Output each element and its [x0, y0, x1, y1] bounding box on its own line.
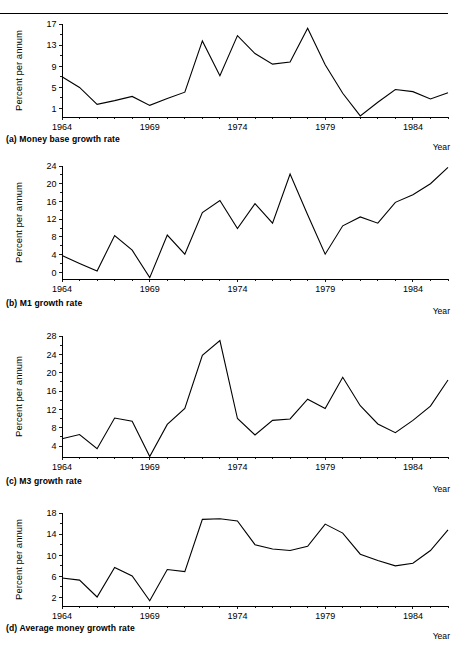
y-tick-label: 12: [46, 405, 56, 415]
y-tick-label: 20: [46, 368, 56, 378]
data-series-line: [62, 341, 448, 457]
plot-area-a: 159131719641969197419791984Percent per a…: [0, 18, 456, 134]
y-tick-label: 0: [51, 268, 56, 278]
y-tick-label: 6: [51, 572, 56, 582]
x-tick-label: 1984: [403, 462, 423, 472]
line-chart-c: 48121620242819641969197419791984Percent …: [0, 328, 456, 476]
x-tick-label: 1974: [227, 462, 247, 472]
caption-d: (d) Average money growth rate: [6, 623, 135, 633]
y-tick-label: 5: [51, 83, 56, 93]
plot-area-c: 48121620242819641969197419791984Percent …: [0, 328, 456, 476]
top-horizontal-rule: [0, 13, 448, 14]
x-axis-label-b: Year: [433, 306, 450, 316]
y-tick-label: 9: [51, 62, 56, 72]
y-tick-label: 24: [46, 350, 56, 360]
y-tick-label: 8: [51, 232, 56, 242]
y-tick-label: 12: [46, 214, 56, 224]
plot-area-d: 2610141819641969197419791984Percent per …: [0, 505, 456, 623]
chart-panel-m1: 0481216202419641969197419791984Percent p…: [0, 158, 456, 298]
y-tick-label: 16: [46, 386, 56, 396]
x-tick-label: 1974: [227, 284, 247, 294]
y-tick-label: 2: [51, 593, 56, 603]
caption-c: (c) M3 growth rate: [6, 476, 82, 486]
x-tick-label: 1969: [140, 462, 160, 472]
y-tick-label: 24: [46, 161, 56, 171]
x-tick-label: 1984: [403, 122, 423, 132]
x-tick-label: 1984: [403, 611, 423, 621]
y-tick-label: 17: [46, 19, 56, 29]
y-tick-label: 10: [46, 551, 56, 561]
y-axis-label: Percent per annum: [13, 356, 24, 437]
y-axis-label: Percent per annum: [13, 30, 24, 111]
y-tick-label: 16: [46, 197, 56, 207]
data-series-line: [62, 519, 448, 601]
x-tick-label: 1964: [52, 284, 72, 294]
x-tick-label: 1974: [227, 122, 247, 132]
x-tick-label: 1974: [227, 611, 247, 621]
y-tick-label: 4: [51, 250, 56, 260]
chart-panel-money-base: 159131719641969197419791984Percent per a…: [0, 18, 456, 134]
y-tick-label: 18: [46, 508, 56, 518]
x-axis-label-d: Year: [433, 631, 450, 641]
figure-page: 159131719641969197419791984Percent per a…: [0, 0, 456, 657]
x-tick-label: 1979: [315, 611, 335, 621]
y-tick-label: 20: [46, 179, 56, 189]
x-tick-label: 1969: [140, 122, 160, 132]
x-tick-label: 1979: [315, 122, 335, 132]
y-axis-label: Percent per annum: [13, 519, 24, 600]
x-tick-label: 1969: [140, 611, 160, 621]
caption-b: (b) M1 growth rate: [6, 298, 82, 308]
chart-panel-average-money: 2610141819641969197419791984Percent per …: [0, 505, 456, 623]
x-tick-label: 1964: [52, 611, 72, 621]
data-series-line: [62, 167, 448, 277]
caption-a: (a) Money base growth rate: [6, 134, 120, 144]
line-chart-d: 2610141819641969197419791984Percent per …: [0, 505, 456, 623]
y-tick-label: 1: [51, 104, 56, 114]
y-tick-label: 14: [46, 529, 56, 539]
chart-panel-m3: 48121620242819641969197419791984Percent …: [0, 328, 456, 476]
x-axis-label-c: Year: [433, 484, 450, 494]
y-tick-label: 13: [46, 40, 56, 50]
y-tick-label: 8: [51, 423, 56, 433]
y-tick-label: 4: [51, 441, 56, 451]
data-series-line: [62, 28, 448, 116]
line-chart-a: 159131719641969197419791984Percent per a…: [0, 18, 456, 134]
line-chart-b: 0481216202419641969197419791984Percent p…: [0, 158, 456, 298]
x-tick-label: 1969: [140, 284, 160, 294]
x-tick-label: 1979: [315, 462, 335, 472]
y-axis-label: Percent per annum: [13, 182, 24, 263]
x-tick-label: 1979: [315, 284, 335, 294]
x-tick-label: 1984: [403, 284, 423, 294]
x-tick-label: 1964: [52, 462, 72, 472]
x-axis-label-a: Year: [433, 142, 450, 152]
plot-area-b: 0481216202419641969197419791984Percent p…: [0, 158, 456, 298]
y-tick-label: 28: [46, 331, 56, 341]
x-tick-label: 1964: [52, 122, 72, 132]
